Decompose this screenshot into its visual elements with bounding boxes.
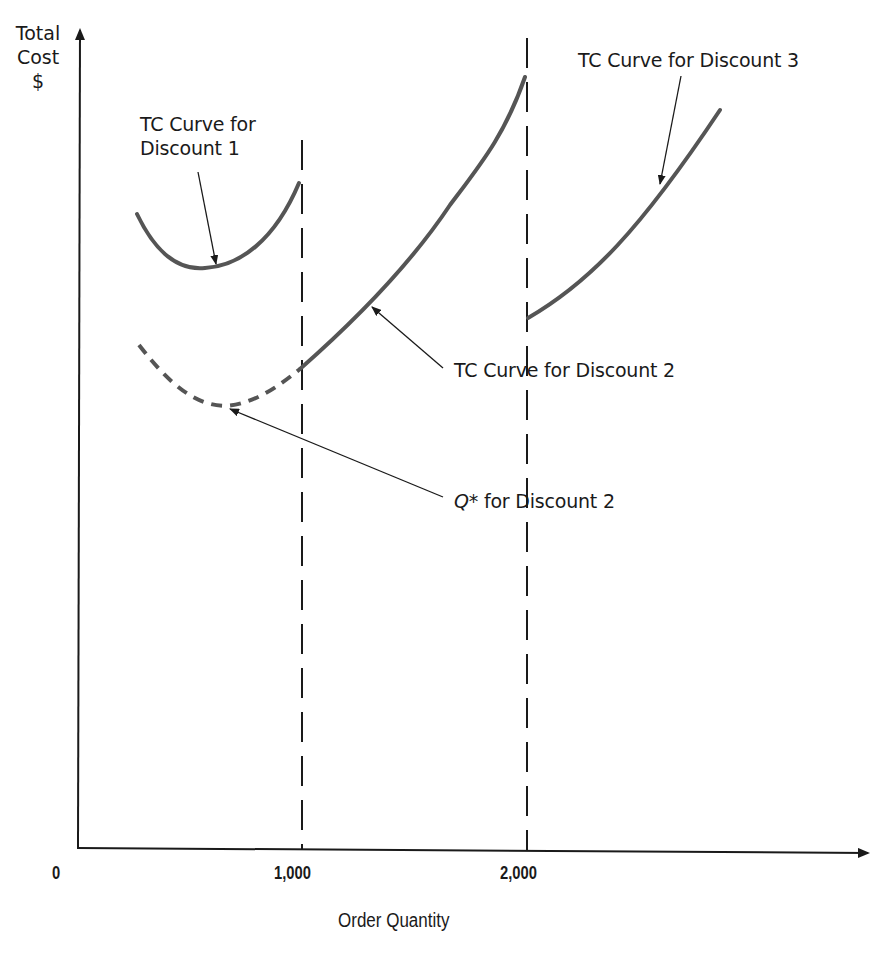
y-axis-label: Total Cost $ [8,24,68,96]
y-axis-label-line3: $ [8,72,68,96]
arrow-discount-2 [372,307,443,368]
annotation-discount-2: TC Curve for Discount 2 [454,361,675,380]
q-star-symbol: Q* [454,490,478,512]
y-axis-label-line1: Total [8,24,68,48]
x-axis [77,848,868,853]
annotation-discount-3: TC Curve for Discount 3 [578,51,799,70]
annotation-discount-1: TC Curve for Discount 1 [140,115,256,163]
annotation-discount-1-line1: TC Curve for [140,115,256,139]
tc-curve-discount-2-dashed [139,345,300,406]
q-star-text: for Discount 2 [478,490,615,512]
chart-canvas [0,0,888,956]
x-tick-2000: 2,000 [500,864,537,882]
tc-curve-discount-1 [137,183,299,268]
annotation-discount-1-line2: Discount 1 [140,139,256,163]
arrow-discount-1 [198,172,216,264]
x-axis-label: Order Quantity [338,910,449,930]
tc-curve-discount-2 [300,77,525,369]
tc-curve-discount-3 [528,110,720,318]
tc-quantity-discount-chart: Total Cost $ 0 1,000 2,000 Order Quantit… [0,0,888,956]
x-tick-1000: 1,000 [274,864,311,882]
x-tick-0: 0 [52,864,60,882]
arrow-q-star [230,409,443,497]
annotation-q-star: Q* for Discount 2 [454,492,615,511]
y-axis-label-line2: Cost [8,48,68,72]
y-axis [78,30,80,848]
